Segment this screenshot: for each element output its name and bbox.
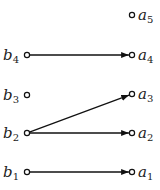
mapping-diagram: b4b3b2b1a5a4a3a2a1: [0, 0, 160, 190]
node-b2: [24, 130, 29, 135]
node-b3: [24, 92, 29, 97]
label-b2: b2: [3, 124, 19, 143]
node-b1: [24, 169, 29, 174]
label-a1: a1: [138, 163, 153, 182]
node-a2: [129, 130, 134, 135]
label-b1: b1: [3, 163, 19, 182]
label-b4: b4: [3, 46, 19, 65]
node-a4: [129, 52, 134, 57]
label-b3: b3: [3, 86, 19, 105]
node-a3: [129, 91, 134, 96]
node-a5: [129, 12, 134, 17]
label-a4: a4: [138, 46, 153, 65]
label-a2: a2: [138, 124, 153, 143]
label-a5: a5: [138, 6, 153, 25]
nodes: [24, 12, 134, 174]
node-a1: [129, 169, 134, 174]
edge-b2-to-a3: [29, 95, 129, 132]
edges: [29, 55, 129, 172]
node-b4: [24, 52, 29, 57]
label-a3: a3: [138, 85, 153, 104]
